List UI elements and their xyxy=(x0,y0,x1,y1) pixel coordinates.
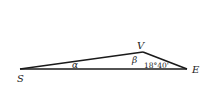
vertex-label-v: V xyxy=(137,40,146,51)
angle-label-alpha: α xyxy=(72,60,78,70)
edge-s-v xyxy=(20,52,143,69)
vertex-label-e: E xyxy=(191,64,200,75)
angle-label-beta: β xyxy=(131,55,137,65)
vertex-label-s: S xyxy=(17,73,24,84)
angle-label-e: 18°40' xyxy=(144,61,169,70)
triangle-diagram: S V E α β 18°40' xyxy=(0,0,216,86)
